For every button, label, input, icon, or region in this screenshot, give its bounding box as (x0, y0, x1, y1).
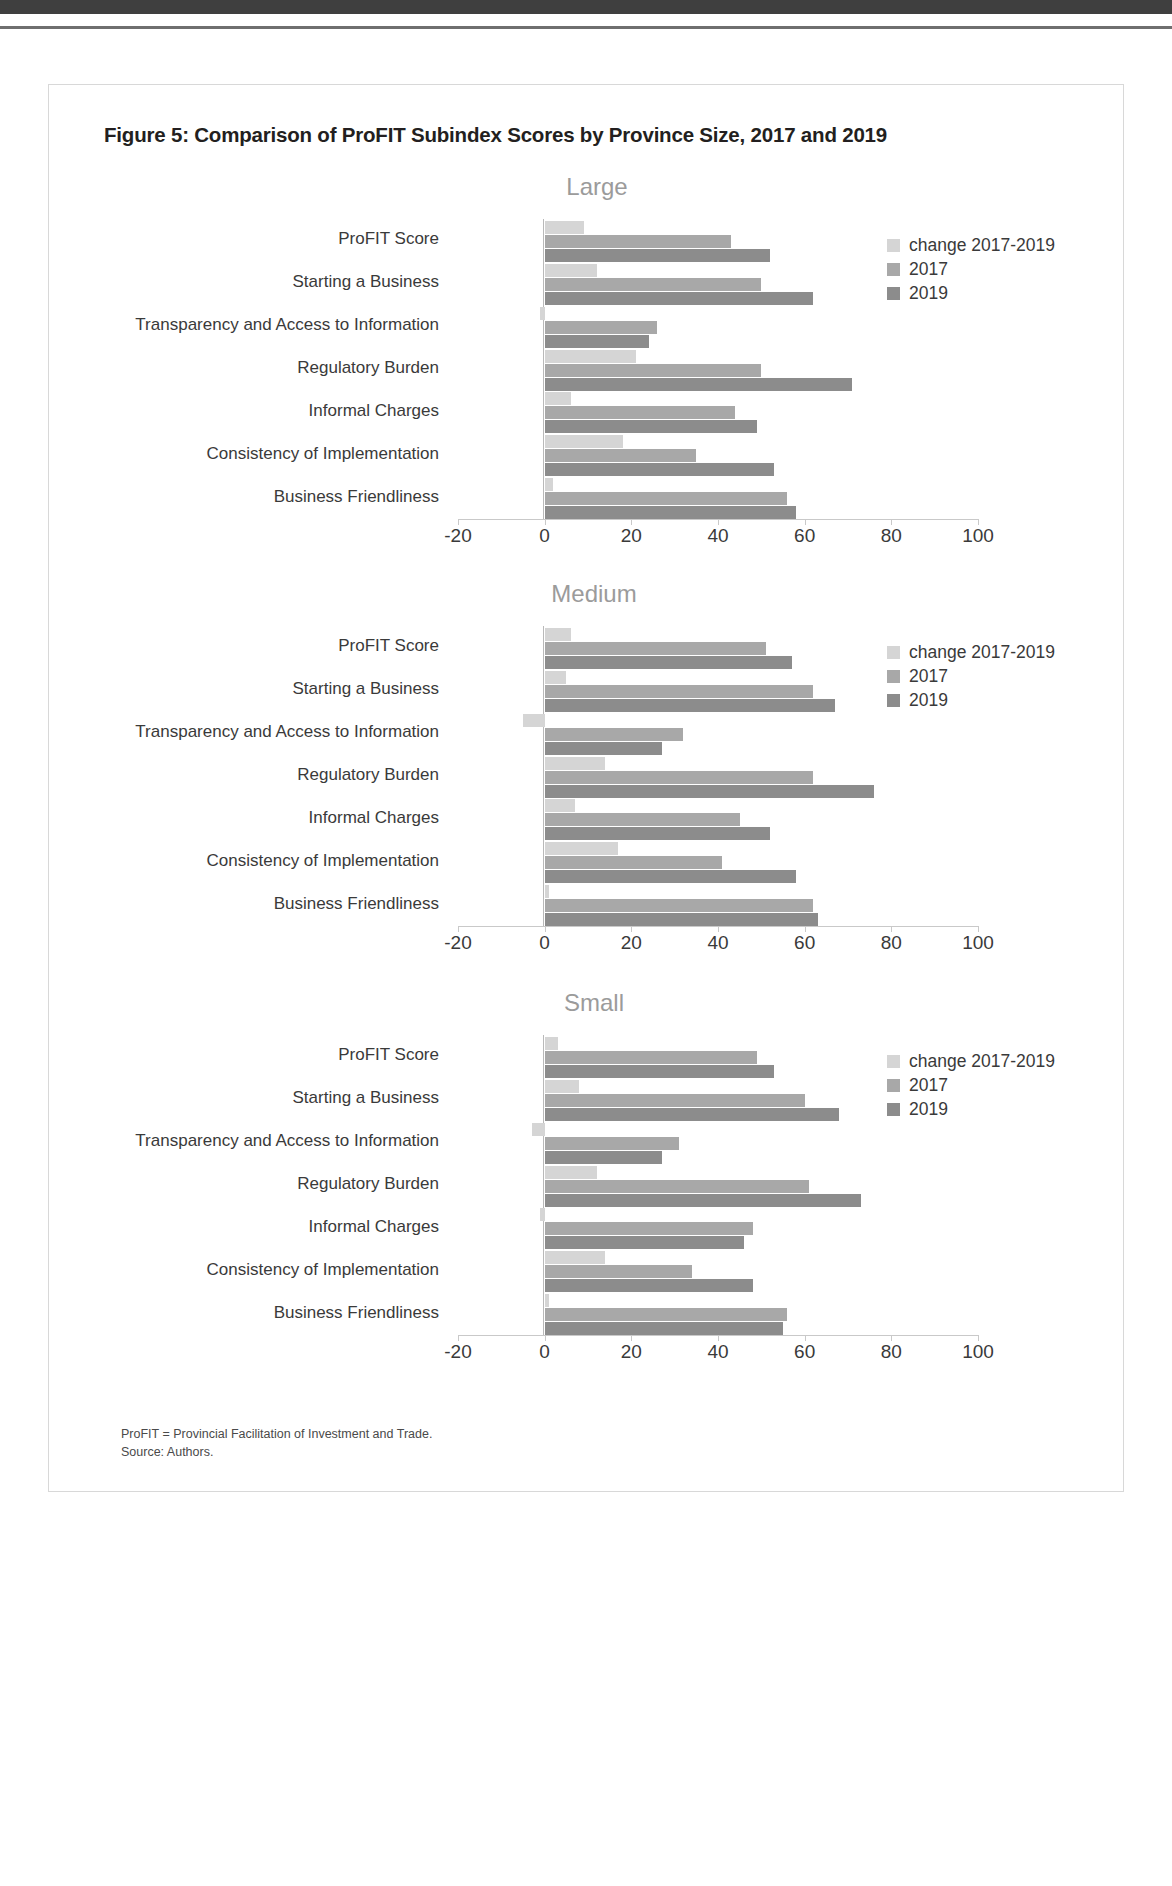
legend-item: 2019 (887, 281, 1117, 305)
bar-change-2017-2019 (545, 435, 623, 448)
category-label: Transparency and Access to Information (49, 722, 439, 742)
legend-swatch-icon (887, 1079, 900, 1092)
bar-change-2017-2019 (545, 221, 584, 234)
bar-change-2017-2019 (545, 1251, 606, 1264)
bar-2017 (545, 856, 723, 869)
x-tick-label: 20 (621, 932, 642, 954)
legend-swatch-icon (887, 287, 900, 300)
x-tick-label: 100 (962, 1341, 994, 1363)
x-tick-label: 60 (794, 1341, 815, 1363)
category-label: Transparency and Access to Information (49, 315, 439, 335)
bar-change-2017-2019 (540, 1208, 544, 1221)
legend-label: 2019 (909, 1099, 948, 1120)
category-label: Informal Charges (49, 808, 439, 828)
bar-change-2017-2019 (545, 1037, 558, 1050)
x-tick-label: 80 (881, 932, 902, 954)
category-labels-medium: ProFIT ScoreStarting a BusinessTranspare… (49, 626, 439, 926)
chart-panel-large: Large ProFIT ScoreStarting a BusinessTra… (49, 173, 1125, 593)
bar-change-2017-2019 (545, 350, 636, 363)
bar-2017 (545, 1265, 692, 1278)
bar-2019 (545, 785, 874, 798)
bar-2019 (545, 742, 662, 755)
category-label: Regulatory Burden (49, 1174, 439, 1194)
x-tick-label: 0 (539, 1341, 550, 1363)
legend-item: 2019 (887, 688, 1117, 712)
bar-2019 (545, 1322, 783, 1335)
page-top-dark-band (0, 0, 1172, 14)
category-label: ProFIT Score (49, 1045, 439, 1065)
bar-change-2017-2019 (545, 1166, 597, 1179)
bar-2017 (545, 642, 766, 655)
bar-2019 (545, 913, 818, 926)
legend-item: 2017 (887, 257, 1117, 281)
bar-change-2017-2019 (523, 714, 545, 727)
category-labels-large: ProFIT ScoreStarting a BusinessTranspare… (49, 219, 439, 519)
x-tick-label: -20 (444, 525, 471, 547)
bar-2019 (545, 506, 796, 519)
x-tick-label: 20 (621, 1341, 642, 1363)
legend-swatch-icon (887, 239, 900, 252)
bar-2017 (545, 278, 762, 291)
x-tick-label: 0 (539, 525, 550, 547)
legend-swatch-icon (887, 263, 900, 276)
category-label: Starting a Business (49, 1088, 439, 1108)
bar-2017 (545, 1308, 788, 1321)
legend-label: change 2017-2019 (909, 1051, 1055, 1072)
panel-title-small: Small (49, 989, 1125, 1017)
footnote-source: Source: Authors. (121, 1443, 821, 1461)
legend-item: change 2017-2019 (887, 640, 1117, 664)
bar-2017 (545, 1051, 757, 1064)
legend-item: change 2017-2019 (887, 1049, 1117, 1073)
bar-2017 (545, 1180, 809, 1193)
bar-change-2017-2019 (532, 1123, 545, 1136)
figure-container: Figure 5: Comparison of ProFIT Subindex … (48, 84, 1124, 1492)
page-top-rule (0, 26, 1172, 29)
bar-2017 (545, 728, 684, 741)
bar-change-2017-2019 (540, 307, 544, 320)
figure-title: Figure 5: Comparison of ProFIT Subindex … (104, 123, 1084, 147)
x-tick-label: -20 (444, 932, 471, 954)
category-label: Business Friendliness (49, 487, 439, 507)
legend-swatch-icon (887, 1103, 900, 1116)
legend-swatch-icon (887, 694, 900, 707)
x-tick-label: 0 (539, 932, 550, 954)
legend-label: change 2017-2019 (909, 235, 1055, 256)
bar-2019 (545, 870, 796, 883)
category-label: Starting a Business (49, 272, 439, 292)
panel-title-medium: Medium (49, 580, 1125, 608)
category-label: Informal Charges (49, 401, 439, 421)
bar-2019 (545, 1194, 861, 1207)
legend-medium: change 2017-201920172019 (887, 640, 1117, 712)
x-tick-label: 80 (881, 525, 902, 547)
category-label: ProFIT Score (49, 229, 439, 249)
x-tick-labels-large: -20020406080100 (458, 525, 978, 553)
bar-2019 (545, 463, 775, 476)
bar-2019 (545, 1236, 744, 1249)
x-tick-label: 100 (962, 525, 994, 547)
x-tick-label: 40 (707, 932, 728, 954)
legend-item: 2019 (887, 1097, 1117, 1121)
bar-2019 (545, 1279, 753, 1292)
bar-2019 (545, 335, 649, 348)
bar-2019 (545, 292, 814, 305)
bar-2017 (545, 406, 736, 419)
bar-change-2017-2019 (545, 264, 597, 277)
legend-item: 2017 (887, 1073, 1117, 1097)
x-tick-label: 60 (794, 525, 815, 547)
category-label: Business Friendliness (49, 1303, 439, 1323)
bar-change-2017-2019 (545, 799, 575, 812)
category-label: Consistency of Implementation (49, 851, 439, 871)
category-label: Starting a Business (49, 679, 439, 699)
bar-2019 (545, 699, 835, 712)
x-tick-labels-small: -20020406080100 (458, 1341, 978, 1369)
x-tick-label: 60 (794, 932, 815, 954)
bar-2017 (545, 813, 740, 826)
bar-2017 (545, 771, 814, 784)
legend-label: 2017 (909, 666, 948, 687)
legend-small: change 2017-201920172019 (887, 1049, 1117, 1121)
bar-2019 (545, 827, 770, 840)
category-label: Business Friendliness (49, 894, 439, 914)
category-labels-small: ProFIT ScoreStarting a BusinessTranspare… (49, 1035, 439, 1335)
legend-label: 2019 (909, 283, 948, 304)
bar-2017 (545, 449, 697, 462)
